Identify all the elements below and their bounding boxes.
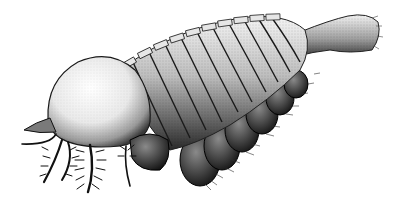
telson bbox=[298, 15, 383, 56]
arthropod-illustration bbox=[0, 0, 399, 208]
illustration-canvas bbox=[0, 0, 399, 208]
